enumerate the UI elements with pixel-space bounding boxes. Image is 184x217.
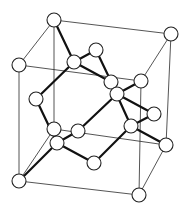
cube-edge (141, 34, 171, 81)
bond (94, 126, 131, 163)
atom-corner (12, 58, 26, 72)
cube-edge (19, 181, 139, 195)
bond (78, 94, 117, 131)
bond (19, 143, 57, 181)
atom-corner (47, 13, 61, 27)
atom-corner (164, 27, 178, 41)
atom-face (71, 124, 85, 138)
atom-interior (124, 119, 138, 133)
cube-edge (139, 81, 141, 195)
cube-edge (19, 20, 54, 65)
atom-interior (67, 55, 81, 69)
cube-edge (19, 129, 54, 181)
atom-corner (134, 74, 148, 88)
cube-edge (54, 20, 171, 34)
atom-face (147, 107, 161, 121)
atom-corner (132, 188, 146, 202)
atom-face (87, 156, 101, 170)
bond (36, 62, 74, 99)
atom-corner (12, 174, 26, 188)
atom-interior (110, 87, 124, 101)
cube-edge (19, 65, 141, 81)
atom-corner (47, 122, 61, 136)
atom-interior (50, 136, 64, 150)
cube-edge (139, 145, 166, 195)
atom-face (89, 43, 103, 57)
atom-corner (159, 138, 173, 152)
cube-edge (166, 34, 171, 145)
diamond-cubic-diagram (0, 0, 184, 217)
atom-face (29, 92, 43, 106)
